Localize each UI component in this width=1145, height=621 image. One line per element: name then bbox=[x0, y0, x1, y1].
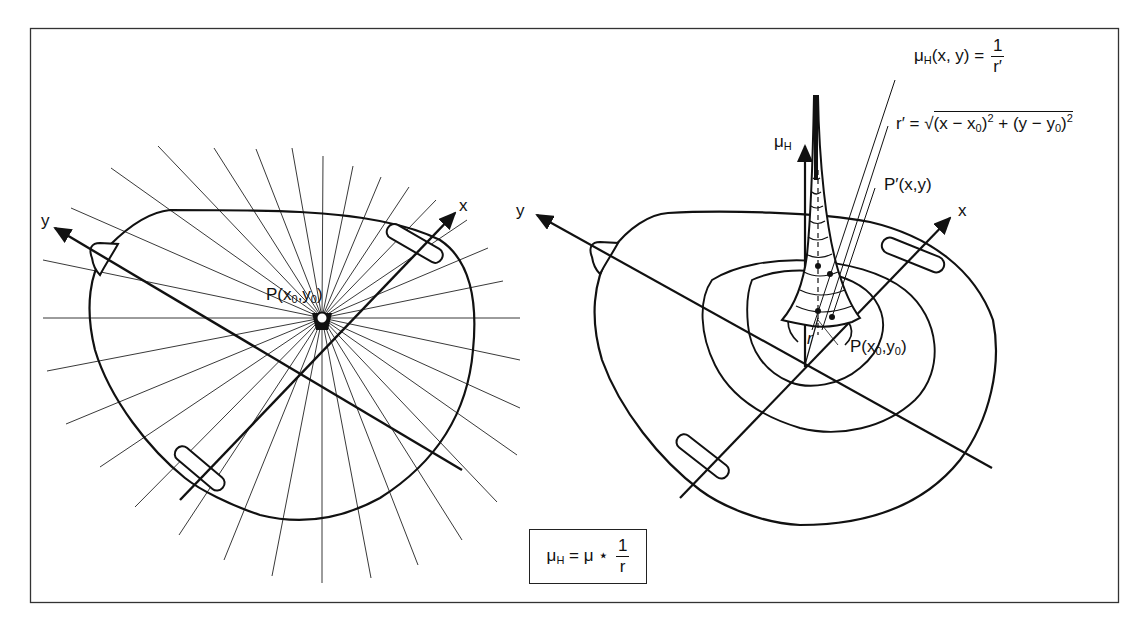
right-panel bbox=[537, 80, 996, 525]
right-y-axis-label: y bbox=[516, 202, 525, 219]
equation-mu-h: μH(x, y) = 1r′ bbox=[914, 37, 1004, 77]
left-y-axis-label: y bbox=[41, 212, 50, 229]
left-x-axis-label: x bbox=[459, 197, 468, 214]
formula-mu-h: μH = μ ⋆ 1r bbox=[547, 537, 630, 577]
right-x-axis-label: x bbox=[958, 202, 967, 219]
left-panel bbox=[43, 146, 520, 583]
equation-r-prime: r′ = √(x − x0)2 + (y − y0)2 bbox=[896, 113, 1073, 134]
formula-box: μH = μ ⋆ 1r bbox=[529, 529, 647, 584]
p-prime-label: P′(x,y) bbox=[884, 176, 932, 193]
x-axis-left bbox=[180, 213, 455, 500]
diagram-canvas bbox=[0, 0, 1145, 621]
r-label: r bbox=[807, 330, 813, 347]
left-point-p-label: P(x0,y0) bbox=[266, 286, 323, 305]
marker-tab-left-bottom bbox=[172, 443, 228, 493]
marker-tab-left-right bbox=[384, 221, 445, 265]
body-contour-left bbox=[90, 210, 475, 520]
mu-h-axis-label: μH bbox=[774, 133, 792, 152]
point-p-left bbox=[317, 313, 328, 324]
blur-cone bbox=[782, 96, 860, 327]
right-point-p-label: P(x0,y0) bbox=[850, 338, 907, 357]
cone-point-a bbox=[815, 263, 821, 269]
